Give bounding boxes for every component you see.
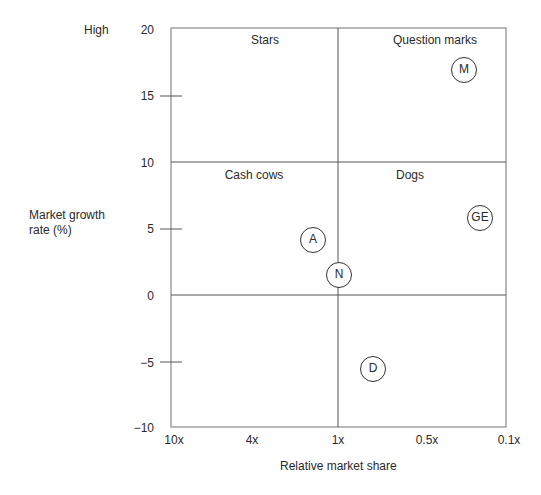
quadrant-label-cash-cows: Cash cows (214, 168, 294, 183)
x-tick-label-10x: 10x (160, 433, 188, 448)
y-tick-label-10: 10 (130, 156, 154, 171)
point-label-a: A (299, 232, 327, 247)
x-tick-label-0-1x: 0.1x (492, 433, 526, 448)
y-axis-title-line1: Market growth (29, 208, 105, 223)
y-axis-high-label: High (84, 23, 109, 38)
x-axis-title: Relative market share (280, 459, 397, 474)
y-axis-title-line2: rate (%) (29, 223, 72, 238)
point-label-d: D (359, 361, 387, 376)
y-tick-label-5: 5 (130, 222, 154, 237)
x-tick-label-4x: 4x (238, 433, 266, 448)
y-tick-label-minus10: −10 (126, 421, 154, 436)
point-label-n: N (325, 267, 353, 282)
y-tick-label-20: 20 (130, 23, 154, 38)
quadrant-label-stars: Stars (230, 33, 300, 48)
y-tick-label-minus5: −5 (130, 356, 154, 371)
x-tick-label-0-5x: 0.5x (410, 433, 444, 448)
y-tick-label-15: 15 (130, 89, 154, 104)
x-tick-label-1x: 1x (324, 433, 352, 448)
y-tick-label-0: 0 (130, 289, 154, 304)
point-label-m: M (450, 62, 478, 77)
point-label-ge: GE (466, 210, 494, 225)
quadrant-label-question-marks: Question marks (370, 33, 500, 48)
quadrant-label-dogs: Dogs (370, 168, 450, 183)
